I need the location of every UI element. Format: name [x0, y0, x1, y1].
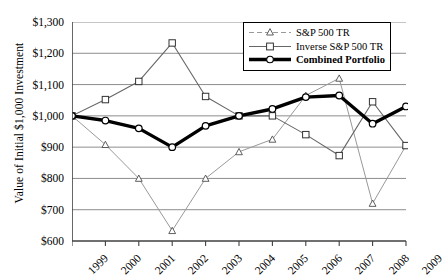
- legend-label-inverse-sp500: Inverse S&P 500 TR: [292, 41, 383, 52]
- legend-item-inverse-sp500: Inverse S&P 500 TR: [248, 40, 385, 54]
- x-axis-tick-label: 2001: [152, 252, 177, 275]
- legend-label-combined-portfolio: Combined Portfolio: [292, 54, 385, 65]
- x-axis-tick-label: 2004: [252, 252, 277, 275]
- x-axis-tick-label: 2007: [353, 252, 378, 275]
- legend-item-combined-portfolio: Combined Portfolio: [248, 53, 385, 67]
- legend-key-circle-icon: [248, 53, 292, 66]
- legend-item-sp500: S&P 500 TR: [248, 26, 385, 40]
- x-axis-tick-label: 2008: [386, 252, 411, 275]
- x-axis-tick-label: 2003: [219, 252, 244, 275]
- x-axis-tick-label: 2005: [286, 252, 311, 275]
- x-axis-tick-label: 2002: [186, 252, 211, 275]
- legend-key-triangle-icon: [248, 26, 292, 39]
- chart-legend: S&P 500 TR Inverse S&P 500 TR Combined P…: [243, 22, 391, 71]
- x-axis-tick-label: 2006: [319, 252, 344, 275]
- legend-key-square-icon: [248, 40, 292, 53]
- x-axis-tick-label: 2000: [119, 252, 144, 275]
- legend-label-sp500: S&P 500 TR: [292, 27, 350, 38]
- x-axis-tick-label: 2009: [419, 252, 444, 275]
- x-axis-tick-label: 1999: [85, 252, 110, 275]
